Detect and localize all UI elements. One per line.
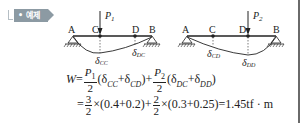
right-point-c-label: C [209,24,216,35]
left-deflection-dc-label: δDC [132,47,146,58]
right-deflection-cd-label: δCD [207,48,221,59]
left-load-label: P1 [104,10,115,23]
left-point-d-label: D [132,24,139,35]
right-deflection-curve [187,37,276,55]
left-deflection-curve [73,37,152,53]
left-deflection-cc-label: δCC [95,55,109,66]
right-deflection-dd-label: δDD [242,57,256,68]
left-point-b-label: B [149,24,156,35]
right-point-a-label: A [182,24,190,35]
example-frame: • 예제 P1 A C D [0,0,300,123]
right-point-b-label: B [273,24,280,35]
left-beam-diagram: P1 A C D B δCC δDC [64,10,160,66]
load-arrow-p2-icon [246,28,251,35]
left-point-c-label: C [92,24,99,35]
right-load-label: P2 [252,10,263,23]
work-equation-line-1: W=P12(δCC+δCD)+P22(δDC+δDD) [66,67,216,94]
work-equation-line-2: =32×(0.4+0.2)+22×(0.3+0.25)=1.45tf · m [77,94,273,117]
right-beam-diagram: P2 A C D B δCD δDD [178,10,284,68]
right-point-d-label: D [239,24,246,35]
left-point-a-label: A [68,24,76,35]
